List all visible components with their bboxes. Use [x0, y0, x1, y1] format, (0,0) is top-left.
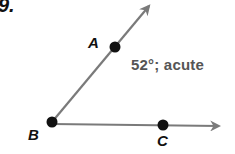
- point-a: [110, 42, 121, 53]
- point-c: [158, 120, 169, 131]
- label-b: B: [28, 126, 39, 143]
- angle-answer: 52°; acute: [131, 56, 204, 73]
- ray-bc: [52, 124, 219, 126]
- label-c: C: [157, 132, 168, 149]
- label-a: A: [88, 34, 99, 51]
- point-b: [47, 117, 58, 128]
